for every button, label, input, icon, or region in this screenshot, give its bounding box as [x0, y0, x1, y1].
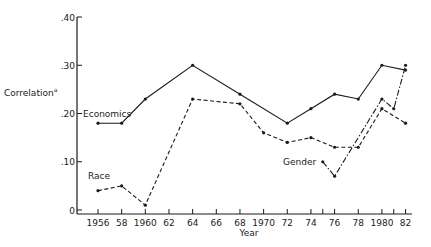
y-tick-label: .10: [61, 157, 76, 167]
gender-data-point: [404, 64, 407, 67]
race-data-point: [96, 189, 99, 192]
economics-data-point: [191, 64, 194, 67]
y-tick-label: .30: [61, 61, 76, 71]
race-data-point: [286, 141, 289, 144]
x-tick-label: 62: [163, 218, 174, 228]
race-data-point: [380, 107, 383, 110]
race-data-point: [333, 146, 336, 149]
economics-line: [98, 65, 406, 123]
economics-data-point: [120, 122, 123, 125]
x-tick-label: 1960: [134, 218, 157, 228]
x-tick-label: 1980: [370, 218, 393, 228]
economics-data-point: [380, 64, 383, 67]
gender-data-point: [392, 107, 395, 110]
economics-data-point: [96, 122, 99, 125]
gender-data-point: [380, 97, 383, 100]
race-data-point: [191, 97, 194, 100]
race-data-point: [357, 146, 360, 149]
axes: 0.10.20.30.40195658196062646668197072747…: [61, 13, 412, 229]
x-tick-label: 68: [234, 218, 246, 228]
race-series-label: Race: [88, 171, 111, 181]
gender-line: [323, 65, 406, 176]
race-data-point: [262, 131, 265, 134]
economics-data-point: [333, 93, 336, 96]
x-tick-label: 74: [305, 218, 317, 228]
x-tick-label: 78: [353, 218, 365, 228]
race-data-point: [309, 136, 312, 139]
y-axis-title: Correlationa: [4, 86, 58, 98]
x-tick-label: 82: [400, 218, 411, 228]
race-data-point: [404, 122, 407, 125]
gender-data-point: [333, 175, 336, 178]
gender-data-point: [321, 160, 324, 163]
x-tick-label: 64: [187, 218, 199, 228]
race-data-point: [238, 102, 241, 105]
race-data-point: [144, 204, 147, 207]
race-line: [98, 99, 406, 205]
x-tick-label: 1956: [87, 218, 110, 228]
y-tick-label: 0: [69, 206, 75, 216]
economics-series-label: Economics: [83, 109, 132, 119]
y-tick-label: .40: [61, 13, 76, 23]
gender-series-label: Gender: [283, 157, 316, 167]
economics-data-point: [309, 107, 312, 110]
x-axis-title: Year: [238, 228, 258, 238]
race-data-point: [120, 184, 123, 187]
y-tick-label: .20: [61, 109, 76, 119]
economics-data-point: [286, 122, 289, 125]
series-lines: [96, 64, 407, 207]
x-tick-label: 66: [211, 218, 223, 228]
x-tick-label: 72: [282, 218, 293, 228]
x-tick-label: 58: [116, 218, 128, 228]
economics-data-point: [357, 97, 360, 100]
economics-data-point: [238, 93, 241, 96]
economics-data-point: [144, 97, 147, 100]
correlation-line-chart: 0.10.20.30.40195658196062646668197072747…: [0, 0, 431, 247]
x-tick-label: 76: [329, 218, 341, 228]
x-tick-label: 1970: [252, 218, 275, 228]
